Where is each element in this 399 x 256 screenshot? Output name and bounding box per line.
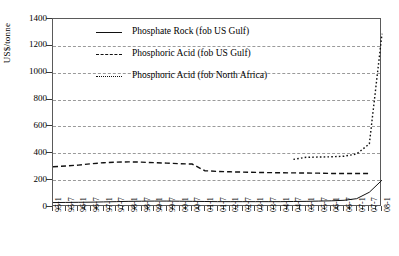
x-tick-label: 08-1 xyxy=(384,197,392,212)
x-tick-label: 06-7 xyxy=(346,197,354,212)
x-tick-mark xyxy=(128,206,129,211)
x-tick-label: 05-1 xyxy=(308,197,316,212)
x-tick-mark xyxy=(381,206,382,211)
x-tick-label: 03-1 xyxy=(257,197,265,212)
x-tick-label: 07-7 xyxy=(371,197,379,212)
x-tick-label: 06-1 xyxy=(333,197,341,212)
x-tick-label: 96-7 xyxy=(93,197,101,212)
y-tick-label: 800 xyxy=(7,94,47,103)
x-tick-label: 02-1 xyxy=(232,197,240,212)
x-tick-label: 98-1 xyxy=(131,197,139,212)
y-tick-label: 600 xyxy=(7,121,47,130)
x-tick-mark xyxy=(318,206,319,211)
x-tick-mark xyxy=(204,206,205,211)
chart-container: US$/tonne 0200400600800100012001400 95-1… xyxy=(0,0,399,256)
y-tick-label: 1400 xyxy=(7,14,47,23)
x-tick-label: 04-1 xyxy=(283,197,291,212)
legend-label: Phosphate Rock (fob US Gulf) xyxy=(132,25,249,38)
x-tick-label: 01-7 xyxy=(220,197,228,212)
legend-item-phosphoric-acid-north-africa: Phosphoric Acid (fob North Africa) xyxy=(96,67,326,89)
x-tick-mark xyxy=(52,206,53,211)
x-tick-label: 97-7 xyxy=(118,197,126,212)
x-tick-mark xyxy=(242,206,243,211)
x-tick-label: 95-7 xyxy=(68,197,76,212)
x-axis-labels: 95-195-796-196-797-197-798-198-799-199-7… xyxy=(52,212,381,256)
legend-item-phosphate-rock: Phosphate Rock (fob US Gulf) xyxy=(96,23,326,45)
x-tick-mark xyxy=(141,206,142,211)
x-tick-mark xyxy=(343,206,344,211)
x-tick-mark xyxy=(280,206,281,211)
x-tick-label: 95-1 xyxy=(55,197,63,212)
x-tick-label: 01-1 xyxy=(207,197,215,212)
legend-swatch-dashdot-icon xyxy=(96,54,122,55)
y-tick-label: 1000 xyxy=(7,67,47,76)
x-tick-label: 02-7 xyxy=(245,197,253,212)
y-tick-label: 1200 xyxy=(7,40,47,49)
x-tick-mark xyxy=(356,206,357,211)
y-tick-label: 400 xyxy=(7,148,47,157)
x-tick-label: 99-1 xyxy=(156,197,164,212)
x-tick-mark xyxy=(179,206,180,211)
x-tick-mark xyxy=(90,206,91,211)
y-tick-label: 200 xyxy=(7,175,47,184)
x-tick-label: 99-7 xyxy=(169,197,177,212)
x-tick-label: 05-7 xyxy=(321,197,329,212)
x-tick-mark xyxy=(103,206,104,211)
x-tick-label: 04-7 xyxy=(295,197,303,212)
legend-swatch-dotted-icon xyxy=(96,76,122,77)
legend-item-phosphoric-acid-us-gulf: Phosphoric Acid (fob US Gulf) xyxy=(96,45,326,67)
x-tick-mark xyxy=(267,206,268,211)
legend-label: Phosphoric Acid (fob North Africa) xyxy=(132,69,267,82)
x-tick-mark xyxy=(229,206,230,211)
x-tick-label: 00-1 xyxy=(182,197,190,212)
x-tick-mark xyxy=(166,206,167,211)
series-line xyxy=(53,162,369,174)
x-tick-label: 96-1 xyxy=(80,197,88,212)
x-tick-label: 03-7 xyxy=(270,197,278,212)
x-tick-label: 07-1 xyxy=(359,197,367,212)
x-tick-label: 97-1 xyxy=(106,197,114,212)
x-tick-label: 00-7 xyxy=(194,197,202,212)
chart-legend: Phosphate Rock (fob US Gulf) Phosphoric … xyxy=(96,23,326,89)
legend-swatch-solid-icon xyxy=(96,32,122,33)
legend-label: Phosphoric Acid (fob US Gulf) xyxy=(132,47,251,60)
y-tick-label: 0 xyxy=(7,202,47,211)
x-tick-label: 98-7 xyxy=(144,197,152,212)
x-tick-mark xyxy=(65,206,66,211)
x-tick-mark xyxy=(305,206,306,211)
x-tick-mark xyxy=(217,206,218,211)
